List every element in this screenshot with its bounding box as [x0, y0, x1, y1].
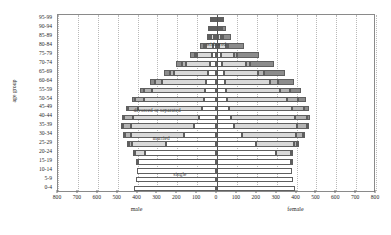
center-axis-line	[217, 15, 218, 191]
x-axis-tick-label: 0	[215, 194, 218, 200]
annotation-married: married	[153, 135, 170, 141]
y-axis-tick-label: 95-99	[39, 15, 52, 21]
x-axis-labels: male female 8007006005004003002001000100…	[57, 194, 375, 204]
x-axis-caption-male: male	[131, 206, 143, 212]
y-axis-tick-label: 45-49	[39, 104, 52, 110]
y-axis-tick-label: 5-9	[45, 176, 52, 182]
y-axis-tick-label: 90-94	[39, 24, 52, 30]
plot-area: widoweddivorced or separatedmarriedsingl…	[57, 14, 375, 192]
y-axis-tick-label: 0-4	[45, 185, 52, 191]
y-axis-tick-label: 65-69	[39, 69, 52, 75]
x-axis-tick	[196, 190, 197, 193]
x-axis-tick-label: 700	[351, 194, 359, 200]
x-axis-tick	[96, 190, 97, 193]
x-axis-tick	[136, 190, 137, 193]
x-axis-tick-label: 600	[331, 194, 339, 200]
y-axis-tick-label: 85-89	[39, 33, 52, 39]
x-axis-tick	[216, 190, 217, 193]
x-axis-tick-label: 700	[73, 194, 81, 200]
x-axis-tick-label: 300	[271, 194, 279, 200]
x-axis-tick	[116, 190, 117, 193]
y-axis-tick-label: 10-14	[39, 167, 52, 173]
x-axis-tick	[156, 190, 157, 193]
x-axis-tick-label: 100	[192, 194, 200, 200]
x-axis-tick-label: 800	[371, 194, 379, 200]
x-axis-tick	[335, 190, 336, 193]
x-axis-tick	[355, 190, 356, 193]
x-axis-tick-label: 800	[53, 194, 61, 200]
population-pyramid-chart: age group 95-9990-9485-8980-8475-7970-74…	[0, 0, 391, 235]
x-axis-tick-label: 200	[252, 194, 260, 200]
x-axis-tick	[255, 190, 256, 193]
x-axis-tick	[295, 190, 296, 193]
x-axis-tick	[57, 190, 58, 193]
x-axis-tick	[176, 190, 177, 193]
x-axis-tick-label: 500	[311, 194, 319, 200]
x-axis-tick	[315, 190, 316, 193]
y-axis-tick-label: 50-54	[39, 96, 52, 102]
x-axis-tick	[375, 190, 376, 193]
y-axis-tick-label: 30-34	[39, 131, 52, 137]
y-axis-tick-label: 55-59	[39, 87, 52, 93]
x-axis-tick-label: 400	[132, 194, 140, 200]
x-axis-tick	[275, 190, 276, 193]
x-axis-tick-label: 200	[172, 194, 180, 200]
y-axis-tick-label: 15-19	[39, 158, 52, 164]
y-axis-tick-label: 35-39	[39, 122, 52, 128]
y-axis-tick-label: 25-29	[39, 140, 52, 146]
annotation-layer: widoweddivorced or separatedmarriedsingl…	[58, 15, 374, 191]
x-axis-tick	[235, 190, 236, 193]
x-axis-tick-label: 300	[152, 194, 160, 200]
y-axis-tick-label: 20-24	[39, 149, 52, 155]
x-axis-tick-label: 500	[112, 194, 120, 200]
y-axis-tick-label: 40-44	[39, 113, 52, 119]
y-axis-tick-label: 75-79	[39, 51, 52, 57]
x-axis-tick-label: 600	[93, 194, 101, 200]
y-axis-labels: 95-9990-9485-8980-8475-7970-7465-6960-64…	[0, 14, 55, 192]
y-axis-tick-label: 60-64	[39, 78, 52, 84]
annotation-single: single	[173, 171, 186, 177]
x-axis-caption-female: female	[287, 206, 303, 212]
grid-line	[376, 15, 378, 191]
x-axis-tick-label: 400	[291, 194, 299, 200]
annotation-divorced-or-separated: divorced or separated	[134, 107, 181, 113]
x-axis-tick-label: 100	[232, 194, 240, 200]
y-axis-tick-label: 80-84	[39, 42, 52, 48]
y-axis-tick-label: 70-74	[39, 60, 52, 66]
x-axis-tick	[76, 190, 77, 193]
